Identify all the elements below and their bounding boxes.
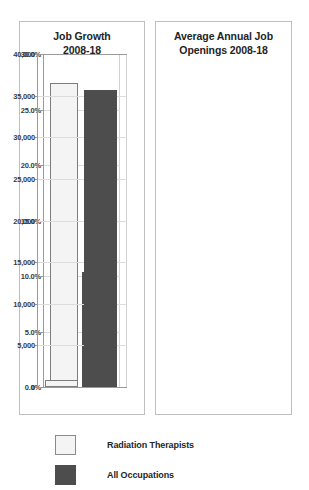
y-axis-tick-label: 15,000 (13, 258, 35, 267)
plot-area-job-openings: 05,00010,00015,00020,00025,00030,00035,0… (37, 54, 127, 388)
chart-title-line-2: Openings 2008-18 (156, 44, 291, 58)
axis-tickmark (35, 304, 38, 305)
chart-title-line-1: Average Annual Job (174, 30, 273, 42)
bar-all-occupations (84, 90, 117, 387)
y-axis-tick-label: 30,000 (13, 133, 35, 142)
chart-legend: Radiation Therapists All Occupations (55, 434, 285, 490)
axis-tickmark (35, 387, 38, 388)
chart-panel-job-openings: Average Annual Job Openings 2008-18 (155, 21, 292, 415)
y-axis-tick-label: 0 (31, 383, 35, 392)
y-axis-tick-label: 20,000 (13, 216, 35, 225)
legend-swatch-radiation-therapists (55, 435, 76, 455)
chart-title-job-openings: Average Annual Job Openings 2008-18 (156, 30, 291, 57)
legend-swatch-all-occupations (55, 465, 76, 485)
axis-tickmark (35, 137, 38, 138)
axis-tickmark (35, 54, 38, 55)
y-axis-tick-label: 25,000 (13, 174, 35, 183)
bar-radiation-therapists (45, 380, 78, 387)
axis-tickmark (35, 96, 38, 97)
axis-tickmark (35, 262, 38, 263)
gridline (38, 54, 127, 55)
y-axis-tick-label: 35,000 (13, 91, 35, 100)
axis-tickmark (35, 179, 38, 180)
y-axis-tick-label: 10,000 (13, 299, 35, 308)
y-axis-tick-label: 5,000 (17, 341, 35, 350)
legend-item-radiation-therapists: Radiation Therapists (55, 434, 285, 456)
y-axis-tick-label: 40,000 (13, 50, 35, 59)
legend-item-all-occupations: All Occupations (55, 464, 285, 486)
legend-label-all-occupations: All Occupations (107, 470, 174, 480)
legend-label-radiation-therapists: Radiation Therapists (107, 440, 194, 450)
chart-title-line-1: Job Growth (53, 30, 110, 42)
axis-tickmark (35, 221, 38, 222)
axis-tickmark (35, 345, 38, 346)
